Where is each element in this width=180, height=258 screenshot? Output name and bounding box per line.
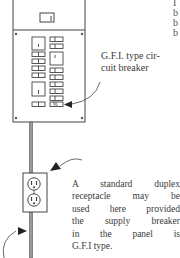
note-line: in the panel is — [72, 228, 180, 240]
edge-line: b — [173, 28, 180, 38]
breaker-array: % — [32, 37, 63, 107]
svg-text:%: % — [53, 101, 58, 107]
cropped-edge-text: I b b b — [173, 0, 180, 38]
note-line: the supply breaker — [72, 215, 180, 227]
receptacle-note: A standard duplex receptacle may be used… — [72, 178, 180, 252]
label-line: cuit breaker — [101, 62, 180, 74]
note-line: G.F.I type. — [72, 240, 180, 252]
conduit-arrow — [3, 227, 27, 258]
duplex-receptacle — [23, 173, 47, 212]
receptacle-arrow — [50, 159, 82, 171]
gfi-arrow — [64, 82, 100, 108]
label-line: G.F.I. type cir- — [101, 50, 180, 62]
note-line: used here provided — [72, 203, 180, 215]
note-line: receptacle may be — [72, 190, 180, 202]
note-line: A standard duplex — [72, 178, 180, 190]
gfi-breaker-label: G.F.I. type cir- cuit breaker — [101, 50, 180, 74]
